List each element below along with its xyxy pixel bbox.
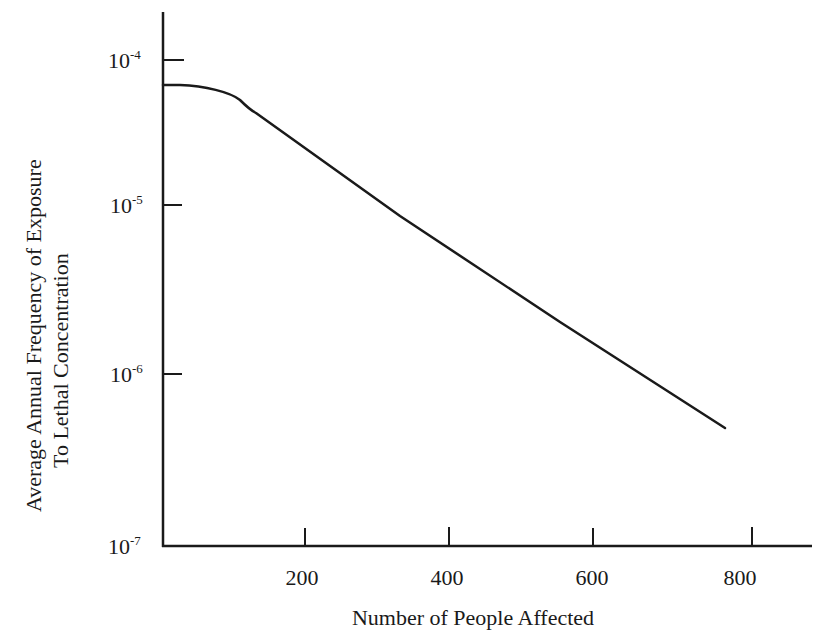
y-tick-label-1e-7: 10-7 [108,536,141,558]
x-axis-label: Number of People Affected [0,605,816,631]
y-tick-label-1e-6: 10-6 [110,364,143,386]
series-line [163,85,725,428]
x-tick-label-600: 600 [576,565,609,591]
y-tick-label-1e-5: 10-5 [110,195,143,217]
y-tick-label-1e-4: 10-4 [108,50,141,72]
x-tick-label-400: 400 [431,565,464,591]
y-axis-label-line2: To Lethal Concentration [47,253,74,468]
x-tick-label-800: 800 [724,565,757,591]
x-tick-label-200: 200 [286,565,319,591]
y-axis-label-line1: Average Annual Frequency of Exposure [20,159,47,512]
